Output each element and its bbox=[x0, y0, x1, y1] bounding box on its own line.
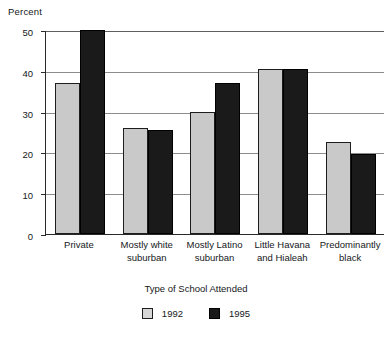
y-axis-tick: 0 bbox=[41, 235, 46, 236]
legend-item-1992: 1992 bbox=[142, 308, 183, 319]
bars-layer bbox=[46, 31, 384, 234]
bar-1995-5 bbox=[351, 154, 376, 234]
y-axis-title: Percent bbox=[8, 6, 42, 17]
bar-1995-2 bbox=[148, 130, 173, 234]
x-axis-label: Mostly Latinosuburban bbox=[181, 239, 249, 264]
bar-1992-4 bbox=[258, 69, 283, 234]
bar-1992-1 bbox=[55, 83, 80, 234]
bar-1995-3 bbox=[215, 83, 240, 234]
x-axis-label: Private bbox=[45, 239, 113, 252]
bar-1992-5 bbox=[326, 142, 351, 234]
x-axis-category-labels: PrivateMostly whitesuburbanMostly Latino… bbox=[45, 239, 384, 275]
bar-1995-1 bbox=[80, 30, 105, 234]
bar-1995-4 bbox=[283, 69, 308, 234]
chart-legend: 19921995 bbox=[0, 308, 392, 319]
y-axis-tick-label: 50 bbox=[22, 27, 33, 38]
bar-chart: Percent 01020304050 PrivateMostly whites… bbox=[0, 0, 392, 340]
legend-swatch-icon bbox=[209, 308, 220, 319]
legend-item-1995: 1995 bbox=[209, 308, 250, 319]
legend-swatch-icon bbox=[142, 308, 153, 319]
legend-label: 1995 bbox=[229, 308, 250, 319]
y-axis-tick-label: 20 bbox=[22, 149, 33, 160]
bar-group bbox=[46, 31, 114, 234]
y-axis-tick-label: 40 bbox=[22, 67, 33, 78]
x-axis-label: Little Havanaand Hialeah bbox=[248, 239, 316, 264]
y-axis-tick-label: 0 bbox=[28, 231, 33, 242]
bar-1992-2 bbox=[123, 128, 148, 234]
y-axis-tick-label: 30 bbox=[22, 108, 33, 119]
bar-group bbox=[249, 31, 317, 234]
y-axis-tick-label: 10 bbox=[22, 190, 33, 201]
bar-1992-3 bbox=[190, 112, 215, 234]
bar-group bbox=[182, 31, 250, 234]
plot-area: 01020304050 bbox=[45, 31, 384, 235]
bar-group bbox=[114, 31, 182, 234]
bar-group bbox=[317, 31, 385, 234]
x-axis-title: Type of School Attended bbox=[0, 283, 392, 294]
x-axis-label: Mostly whitesuburban bbox=[113, 239, 181, 264]
x-axis-label: Predominantlyblack bbox=[316, 239, 384, 264]
legend-label: 1992 bbox=[162, 308, 183, 319]
